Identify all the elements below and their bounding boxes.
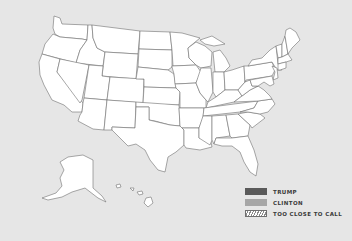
clinton-swatch (245, 199, 267, 206)
state-wy[interactable] (102, 52, 138, 79)
state-ak[interactable] (42, 155, 106, 202)
state-hi[interactable] (116, 184, 153, 207)
state-sd[interactable] (138, 49, 172, 70)
legend-item-clinton: CLINTON (245, 197, 342, 208)
legend: TRUMP CLINTON TOO CLOSE TO CALL (245, 186, 342, 219)
state-nm[interactable] (104, 100, 136, 130)
state-co[interactable] (107, 77, 144, 103)
legend-label: TOO CLOSE TO CALL (273, 211, 342, 217)
state-nd[interactable] (139, 31, 172, 50)
state-fl[interactable] (214, 136, 258, 176)
legend-label: CLINTON (273, 200, 303, 206)
legend-item-trump: TRUMP (245, 186, 342, 197)
state-ks[interactable] (143, 87, 180, 105)
state-me[interactable] (285, 28, 300, 54)
trump-swatch (245, 188, 267, 195)
legend-item-too-close: TOO CLOSE TO CALL (245, 208, 342, 219)
legend-label: TRUMP (273, 189, 297, 195)
too-close-swatch (245, 210, 267, 217)
